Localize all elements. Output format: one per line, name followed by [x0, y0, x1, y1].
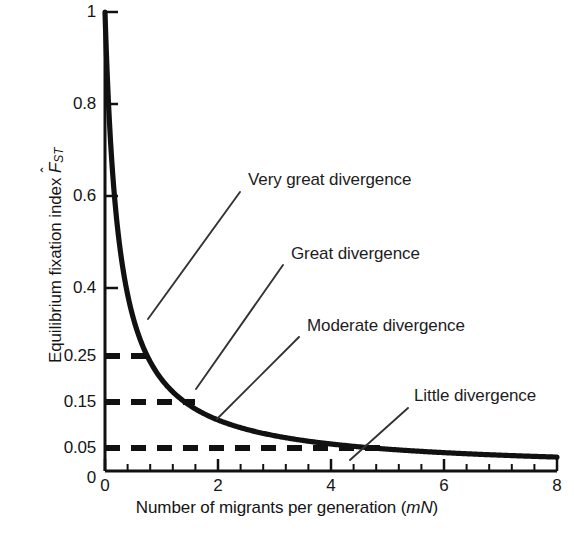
y-axis-title-text: Equilibrium fixation index	[46, 178, 65, 363]
leader-great-divergence	[196, 265, 283, 389]
x-axis-title: Number of migrants per generation (mN)	[0, 498, 574, 518]
x-axis-title-symbol: mN	[406, 498, 432, 517]
y-axis-symbol: Fˆ	[46, 163, 66, 173]
annotation-moderate-divergence: Moderate divergence	[307, 316, 465, 336]
x-tick-label-6: 6	[424, 476, 464, 496]
y-tick-label-1: 1	[48, 2, 96, 22]
annotation-little-divergence: Little divergence	[414, 386, 536, 406]
x-tick-label-8: 8	[537, 476, 574, 496]
annotation-great-divergence: Great divergence	[291, 244, 420, 264]
chart-figure: 1 0.8 0.6 0.4 0.25 0.15 0.05 0 0 2 4 6 8…	[0, 0, 574, 538]
leader-very-great-divergence	[148, 192, 240, 319]
y-axis-title: Equilibrium fixation index FˆST	[46, 45, 67, 465]
x-tick-label-0: 0	[85, 476, 125, 496]
x-axis-title-text: Number of migrants per generation	[136, 498, 396, 517]
annotation-very-great-divergence: Very great divergence	[248, 170, 411, 190]
leader-moderate-divergence	[217, 337, 299, 419]
circumflex-accent-icon: ˆ	[39, 167, 57, 172]
x-tick-label-2: 2	[198, 476, 238, 496]
x-tick-label-4: 4	[311, 476, 351, 496]
y-axis-symbol-subscript: ST	[52, 148, 66, 163]
x-tick-marks	[105, 459, 557, 471]
reference-lines	[105, 356, 390, 448]
